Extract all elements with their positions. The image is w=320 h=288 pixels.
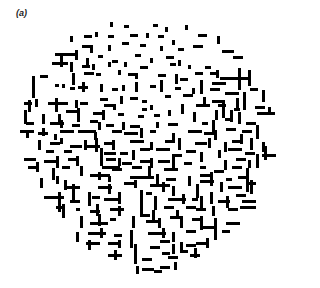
line-segment bbox=[200, 174, 210, 177]
line-segment bbox=[255, 106, 265, 109]
line-segment bbox=[60, 138, 63, 144]
line-segment bbox=[92, 196, 100, 199]
line-segment bbox=[172, 186, 175, 196]
line-segment bbox=[110, 208, 124, 211]
line-segment bbox=[96, 73, 101, 76]
line-segment bbox=[160, 240, 170, 243]
line-segment bbox=[108, 242, 118, 245]
line-segment bbox=[52, 62, 68, 65]
line-segment bbox=[100, 84, 103, 92]
line-segment bbox=[114, 250, 117, 260]
line-segment bbox=[180, 216, 183, 228]
line-segment bbox=[264, 146, 267, 160]
line-segment bbox=[135, 82, 138, 92]
line-segment bbox=[268, 107, 271, 115]
line-segment bbox=[170, 63, 176, 66]
line-segment bbox=[212, 206, 215, 216]
line-segment bbox=[194, 248, 197, 258]
line-segment bbox=[104, 152, 116, 155]
line-segment bbox=[122, 42, 129, 45]
line-segment bbox=[222, 230, 230, 233]
line-segment bbox=[162, 252, 170, 255]
line-segment bbox=[88, 192, 91, 206]
line-segment bbox=[52, 168, 55, 180]
line-segment bbox=[142, 100, 147, 103]
line-segment bbox=[108, 35, 114, 38]
line-segment bbox=[98, 172, 101, 180]
line-segment bbox=[35, 99, 38, 107]
line-segment bbox=[88, 232, 106, 235]
line-segment bbox=[100, 98, 108, 101]
line-segment bbox=[212, 82, 226, 85]
line-segment bbox=[166, 178, 176, 181]
line-segment bbox=[210, 172, 213, 186]
line-segment bbox=[128, 73, 136, 76]
line-segment bbox=[146, 33, 149, 38]
line-segment bbox=[146, 192, 152, 195]
line-segment bbox=[257, 112, 275, 115]
line-segment bbox=[174, 262, 177, 270]
line-segment bbox=[193, 112, 196, 122]
line-segment bbox=[70, 145, 82, 148]
line-segment bbox=[232, 166, 242, 169]
line-segment bbox=[158, 74, 166, 77]
line-segment bbox=[236, 158, 246, 161]
line-segment bbox=[256, 154, 259, 168]
line-segment bbox=[178, 138, 181, 150]
line-segment bbox=[150, 105, 153, 110]
line-segment bbox=[140, 148, 150, 151]
line-segment bbox=[112, 140, 115, 150]
line-segment bbox=[130, 176, 154, 179]
line-segment bbox=[100, 228, 103, 238]
line-segment bbox=[140, 44, 146, 47]
line-segment bbox=[158, 218, 161, 228]
line-segment bbox=[156, 122, 159, 128]
line-segment bbox=[44, 160, 58, 163]
line-segment bbox=[38, 140, 41, 150]
line-segment bbox=[246, 122, 256, 125]
line-segment bbox=[95, 138, 98, 152]
line-segment bbox=[168, 256, 178, 259]
line-segment bbox=[214, 226, 217, 240]
line-segment bbox=[104, 198, 118, 201]
line-segment bbox=[186, 150, 196, 153]
line-segment bbox=[110, 22, 113, 27]
line-segment bbox=[226, 196, 229, 208]
line-segment bbox=[236, 98, 239, 108]
line-segment bbox=[90, 45, 93, 53]
line-segment bbox=[150, 246, 160, 249]
line-segment bbox=[200, 196, 203, 210]
line-segment bbox=[32, 76, 35, 98]
line-segment bbox=[153, 24, 158, 27]
line-segment bbox=[165, 140, 175, 143]
line-segment bbox=[186, 244, 196, 247]
line-segment bbox=[165, 95, 171, 98]
line-segment bbox=[175, 87, 181, 90]
line-segment bbox=[118, 113, 124, 116]
line-segment bbox=[122, 85, 125, 91]
line-segment bbox=[262, 90, 265, 102]
line-segment bbox=[220, 182, 223, 192]
line-segment bbox=[112, 130, 122, 133]
line-segment bbox=[146, 220, 160, 223]
line-segment bbox=[132, 150, 135, 160]
line-segment bbox=[26, 122, 34, 125]
line-segment bbox=[228, 208, 238, 211]
line-segment bbox=[172, 232, 175, 242]
line-segment bbox=[112, 60, 118, 63]
line-segment bbox=[181, 104, 184, 114]
line-segment bbox=[192, 198, 198, 201]
line-segment bbox=[98, 122, 101, 130]
line-segment bbox=[62, 84, 65, 88]
line-segment bbox=[196, 104, 210, 107]
line-segment bbox=[236, 194, 246, 197]
line-segment bbox=[184, 162, 192, 165]
line-segment bbox=[162, 228, 165, 238]
line-segment bbox=[62, 204, 65, 218]
line-segment bbox=[124, 62, 127, 67]
line-segment bbox=[180, 78, 188, 81]
line-segment bbox=[104, 104, 114, 107]
line-segment bbox=[158, 35, 164, 38]
line-segment bbox=[198, 34, 207, 37]
line-segment bbox=[72, 73, 75, 85]
